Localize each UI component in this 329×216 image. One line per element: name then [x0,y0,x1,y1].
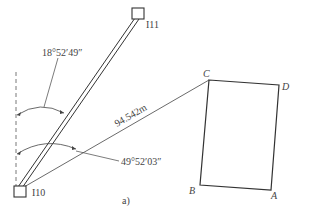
arrow-head-icon [60,110,64,114]
station-I10-marker [14,186,26,197]
arrow-head-icon [17,112,21,116]
station-I11-marker [132,8,144,19]
survey-diagram: I11 I10 18°52′49″ 49°52′03″ 94.542m C D … [0,0,329,216]
arrow-head-icon [72,146,76,150]
corner-label-B: B [189,185,195,196]
angle-label-C: 49°52′03″ [121,156,161,167]
angle-label-I11: 18°52′49″ [42,47,82,58]
corner-label-C: C [203,68,210,79]
sightline-I10-C [24,80,209,187]
station-I11-label: I11 [146,19,159,30]
figure-caption: a) [122,195,130,207]
building-outline [200,80,279,190]
angle-arc-I11 [17,107,64,115]
corner-label-A: A [270,190,278,201]
leader-line-angle-C [76,151,119,161]
station-I10-label: I10 [32,187,45,198]
corner-label-D: D [281,81,290,92]
leader-line-angle-I11 [44,58,58,107]
arrow-head-icon [17,151,21,155]
distance-label: 94.542m [113,101,149,128]
